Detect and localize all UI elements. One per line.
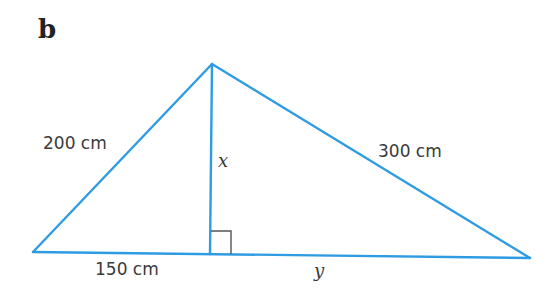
label-left-side: 200 cm [43, 133, 107, 153]
label-right-side: 300 cm [378, 141, 442, 161]
label-height-x: x [218, 150, 228, 171]
label-base-left: 150 cm [95, 259, 159, 279]
altitude-line [210, 64, 212, 254]
side-right [212, 64, 530, 258]
base-line [33, 252, 530, 258]
right-angle-marker [211, 231, 231, 254]
label-base-y: y [314, 260, 324, 281]
side-left [33, 64, 212, 252]
